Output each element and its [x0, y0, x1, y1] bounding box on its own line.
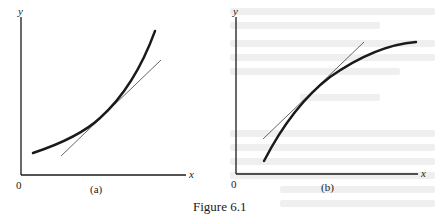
- panel-a-label: (a): [90, 184, 102, 195]
- panel-b-x-axis-label: x: [421, 168, 426, 179]
- panel-b-axes: [236, 17, 418, 174]
- panel-b-origin-label: 0: [231, 179, 237, 190]
- figure-canvas: [0, 0, 442, 220]
- panel-a-x-axis-label: x: [189, 169, 194, 180]
- figure-caption: Figure 6.1: [193, 200, 246, 213]
- panel-a-y-axis-label: y: [18, 6, 23, 17]
- panel-a-origin-label: 0: [16, 180, 22, 191]
- panel-a-axes: [21, 17, 186, 175]
- panel-b-y-axis-label: y: [233, 6, 238, 17]
- panel-a-convex-curve: [33, 31, 155, 153]
- panel-b-label: (b): [321, 182, 334, 193]
- panel-b-concave-curve: [264, 42, 416, 161]
